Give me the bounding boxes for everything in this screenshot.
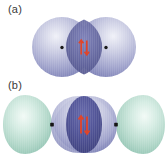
- orbital-overlap-figure: (a): [0, 0, 168, 161]
- panel-b-left-back-lobe: [3, 95, 52, 154]
- panel-a-nucleus-right: [104, 46, 107, 49]
- panel-b-diagram: [0, 88, 168, 161]
- panel-a-diagram: [0, 10, 168, 84]
- panel-b-right-back-lobe: [116, 95, 165, 154]
- panel-b-svg: [0, 88, 168, 161]
- panel-b-nucleus-right: [114, 123, 118, 127]
- panel-b-nucleus-left: [50, 123, 54, 127]
- panel-a-nucleus-left: [60, 46, 63, 49]
- panel-a-svg: [0, 10, 168, 84]
- panel-b-overlap-region: [66, 96, 102, 153]
